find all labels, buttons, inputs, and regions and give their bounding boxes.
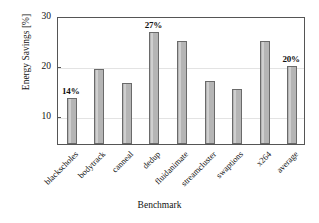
y-axis-tick-label: 20 (29, 61, 51, 71)
bar-value-label-average: 20% (271, 54, 311, 64)
bar-x264 (260, 41, 270, 144)
bar-highlight (179, 42, 181, 143)
y-axis-tick-mark (57, 67, 61, 68)
energy-savings-bar-chart: Energy Savings [%] Benchmark 10203014%bl… (0, 0, 319, 223)
bar-blackscholes (67, 98, 77, 144)
y-axis-tick-label: 10 (29, 111, 51, 121)
bar-average (287, 66, 297, 144)
bar-swaptions (232, 89, 242, 144)
x-axis-tick-label-blackscholes: blackscholes (29, 149, 80, 200)
plot-area (57, 17, 305, 145)
x-axis-title: Benchmark (0, 200, 319, 210)
bar-value-label-blackscholes: 14% (51, 86, 91, 96)
bar-highlight (69, 99, 71, 143)
y-axis-tick-label: 30 (29, 11, 51, 21)
bar-highlight (289, 67, 291, 143)
bar-highlight (262, 42, 264, 143)
bar-highlight (96, 70, 98, 143)
bar-streamcluster (205, 81, 215, 144)
bar-highlight (234, 90, 236, 143)
bar-canneal (122, 83, 132, 144)
bar-value-label-dedup: 27% (133, 20, 173, 30)
bar-dedup (149, 32, 159, 144)
bar-highlight (124, 84, 126, 143)
bar-fluidanimate (177, 41, 187, 144)
bar-highlight (151, 33, 153, 143)
bar-highlight (207, 82, 209, 143)
y-axis-tick-mark (57, 117, 61, 118)
bar-bodytrack (94, 69, 104, 144)
